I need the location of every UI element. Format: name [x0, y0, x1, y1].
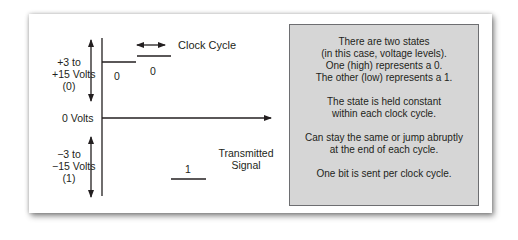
- clock-cycle-label: Clock Cycle: [178, 39, 236, 51]
- bit-value-label: 1: [185, 163, 191, 175]
- info-paragraph-jump: Can stay the same or jump abruptly at th…: [290, 132, 478, 156]
- transmitted-signal-label: Transmitted Signal: [216, 147, 276, 171]
- bit-value-label: 0: [114, 70, 120, 82]
- zero-volts-label: 0 Volts: [62, 112, 94, 124]
- high-voltage-label: +3 to +15 Volts (0): [52, 56, 86, 92]
- bit-value-label: 0: [150, 65, 156, 77]
- info-box: There are two states (in this case, volt…: [289, 24, 479, 206]
- low-voltage-label: −3 to −15 Volts (1): [52, 148, 86, 184]
- info-paragraph-states: There are two states (in this case, volt…: [290, 36, 478, 84]
- info-paragraph-constant: The state is held constant within each c…: [290, 96, 478, 120]
- info-paragraph-bit-rate: One bit is sent per clock cycle.: [290, 168, 478, 180]
